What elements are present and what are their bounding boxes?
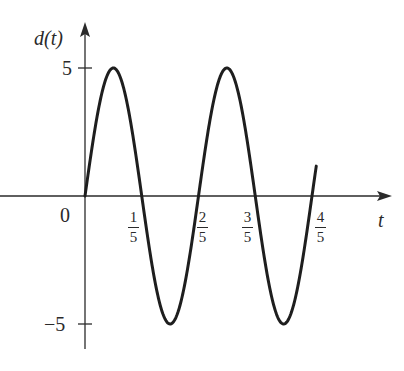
sinusoid-plot: d(t) t 5 −5 0 1 5 2 5 3 5 4 5 bbox=[0, 0, 404, 371]
x-tick-3-numerator: 3 bbox=[244, 210, 252, 225]
fraction-bar bbox=[197, 227, 208, 228]
x-tick-1-denominator: 5 bbox=[130, 230, 138, 245]
fraction-bar bbox=[315, 227, 326, 228]
fraction-bar bbox=[128, 227, 139, 228]
x-axis-label: t bbox=[378, 210, 384, 230]
x-tick-4-numerator: 4 bbox=[317, 210, 325, 225]
x-tick-label-1-5: 1 5 bbox=[128, 210, 139, 245]
fraction-bar bbox=[242, 227, 253, 228]
origin-label: 0 bbox=[60, 205, 70, 225]
x-tick-label-2-5: 2 5 bbox=[197, 210, 208, 245]
x-tick-2-denominator: 5 bbox=[199, 230, 207, 245]
x-tick-3-denominator: 5 bbox=[244, 230, 252, 245]
y-axis-label: d(t) bbox=[34, 28, 63, 48]
x-tick-label-3-5: 3 5 bbox=[242, 210, 253, 245]
x-tick-4-denominator: 5 bbox=[317, 230, 325, 245]
x-tick-label-4-5: 4 5 bbox=[315, 210, 326, 245]
y-tick-label-neg5: −5 bbox=[44, 314, 65, 334]
x-tick-2-numerator: 2 bbox=[199, 210, 207, 225]
x-tick-1-numerator: 1 bbox=[130, 210, 138, 225]
y-tick-label-5: 5 bbox=[62, 58, 72, 78]
